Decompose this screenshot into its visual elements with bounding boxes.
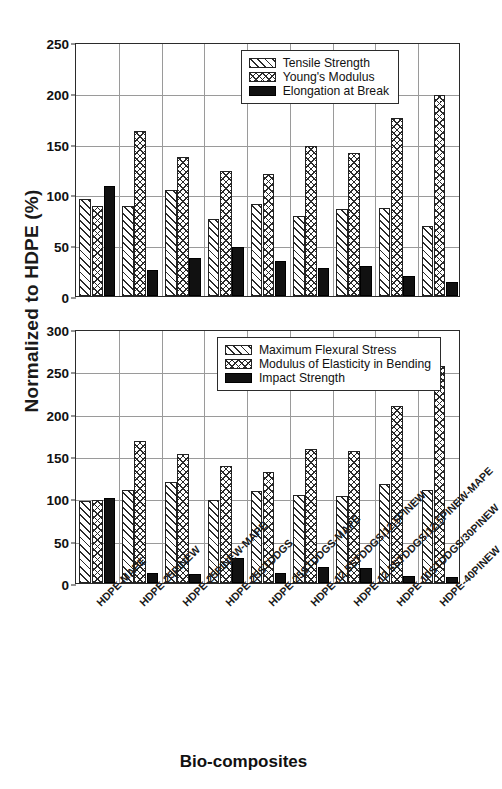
bar bbox=[434, 95, 446, 296]
bar bbox=[104, 498, 116, 583]
bar-group bbox=[422, 44, 458, 296]
bar bbox=[92, 206, 104, 296]
legend-item: Tensile Strength bbox=[249, 56, 389, 70]
bar bbox=[336, 209, 348, 296]
bar bbox=[208, 219, 220, 296]
y-axis-tick-mark bbox=[71, 373, 76, 374]
bar-group bbox=[79, 331, 115, 583]
y-axis-tick-mark bbox=[71, 298, 76, 299]
y-axis-tick-mark bbox=[71, 331, 76, 332]
bar-group bbox=[122, 331, 158, 583]
chart-legend: Tensile StrengthYoung's ModulusElongatio… bbox=[241, 50, 399, 104]
bar bbox=[251, 204, 263, 296]
y-axis-tick-mark bbox=[71, 145, 76, 146]
gridline-vertical bbox=[119, 44, 120, 296]
gridline-vertical bbox=[204, 44, 205, 296]
bar bbox=[275, 261, 287, 296]
bar bbox=[232, 247, 244, 296]
bar bbox=[104, 186, 116, 296]
bar bbox=[134, 131, 146, 296]
legend-item: Impact Strength bbox=[225, 371, 431, 385]
chart-panel-bottom: 050100150200250300Maximum Flexural Stres… bbox=[75, 330, 460, 584]
x-axis-title: Bio-composites bbox=[0, 752, 487, 772]
legend-swatch-cross-hatch bbox=[225, 359, 252, 369]
bar-group bbox=[165, 44, 201, 296]
plot-area-top: 050100150200250Tensile StrengthYoung's M… bbox=[75, 43, 460, 297]
y-axis-tick-mark bbox=[71, 247, 76, 248]
legend-label: Young's Modulus bbox=[283, 71, 375, 83]
x-axis-labels: HDPE-MAPEHDPE-25PINEWHDPE-25PINEW-MAPEHD… bbox=[0, 596, 487, 736]
y-axis-tick-mark bbox=[71, 94, 76, 95]
bar bbox=[348, 153, 360, 296]
legend-label: Tensile Strength bbox=[283, 57, 370, 69]
bar bbox=[305, 146, 317, 296]
legend-item: Elongation at Break bbox=[249, 84, 389, 98]
bar bbox=[422, 226, 434, 296]
bar-group bbox=[208, 44, 244, 296]
gridline-vertical bbox=[418, 44, 419, 296]
bar bbox=[403, 276, 415, 296]
legend-label: Impact Strength bbox=[259, 372, 345, 384]
y-axis-title: Normalized to HDPE (%) bbox=[21, 121, 43, 481]
bar bbox=[263, 174, 275, 296]
y-axis-tick-mark bbox=[71, 585, 76, 586]
bar bbox=[177, 157, 189, 296]
legend-label: Elongation at Break bbox=[283, 85, 389, 97]
bar bbox=[360, 266, 372, 296]
legend-swatch-diagonal-hatch bbox=[225, 345, 252, 355]
bar bbox=[379, 208, 391, 296]
bar bbox=[79, 199, 91, 296]
bar bbox=[391, 118, 403, 296]
gridline-vertical bbox=[162, 331, 163, 583]
bar bbox=[220, 171, 232, 296]
bar bbox=[92, 500, 104, 583]
bar bbox=[165, 190, 177, 296]
legend-swatch-solid-black bbox=[249, 86, 276, 96]
bar bbox=[79, 501, 91, 583]
y-axis-tick-mark bbox=[71, 458, 76, 459]
legend-swatch-cross-hatch bbox=[249, 72, 276, 82]
bar bbox=[293, 216, 305, 296]
bar bbox=[189, 258, 201, 296]
legend-label: Maximum Flexural Stress bbox=[259, 344, 396, 356]
legend-swatch-solid-black bbox=[225, 373, 252, 383]
bar bbox=[318, 268, 330, 296]
legend-label: Modulus of Elasticity in Bending bbox=[259, 358, 431, 370]
y-axis-tick-mark bbox=[71, 542, 76, 543]
chart-legend: Maximum Flexural StressModulus of Elasti… bbox=[217, 337, 441, 391]
bar bbox=[446, 282, 458, 296]
legend-item: Young's Modulus bbox=[249, 70, 389, 84]
y-axis-tick-mark bbox=[71, 415, 76, 416]
legend-item: Modulus of Elasticity in Bending bbox=[225, 357, 431, 371]
gridline-vertical bbox=[204, 331, 205, 583]
y-axis-tick-mark bbox=[71, 44, 76, 45]
chart-panel-top: 050100150200250Tensile StrengthYoung's M… bbox=[75, 43, 460, 297]
bar bbox=[147, 270, 159, 296]
bar-group bbox=[122, 44, 158, 296]
y-axis-tick-mark bbox=[71, 500, 76, 501]
gridline-vertical bbox=[119, 331, 120, 583]
legend-swatch-diagonal-hatch bbox=[249, 58, 276, 68]
legend-item: Maximum Flexural Stress bbox=[225, 343, 431, 357]
y-axis-tick-mark bbox=[71, 196, 76, 197]
bar-group bbox=[79, 44, 115, 296]
bar bbox=[122, 206, 134, 296]
plot-area-bottom: 050100150200250300Maximum Flexural Stres… bbox=[75, 330, 460, 584]
gridline-vertical bbox=[162, 44, 163, 296]
